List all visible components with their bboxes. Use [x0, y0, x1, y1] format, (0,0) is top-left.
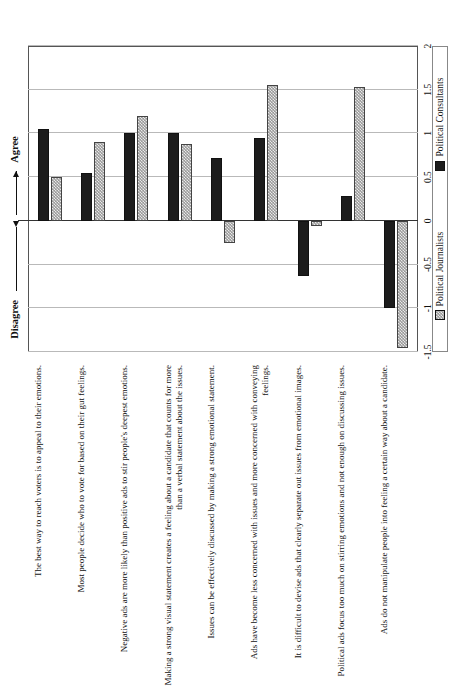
disagree-label: Disagree	[9, 300, 20, 339]
bar-chart: The best way to reach voters is to appea…	[0, 0, 453, 691]
bar-group	[288, 46, 331, 352]
chart-legend: Political JournalistsPolitical Consultan…	[432, 46, 448, 352]
category-label: Negative ads are more likely than positi…	[119, 365, 130, 691]
legend-label: Political Consultants	[435, 78, 445, 157]
bar-political-consultants[interactable]	[38, 129, 49, 221]
bar-political-journalists[interactable]	[94, 142, 105, 221]
category-label: Issues can be effectively discussed by m…	[206, 365, 217, 691]
legend-label: Political Journalists	[435, 232, 445, 307]
bar-political-journalists[interactable]	[311, 221, 322, 226]
bar-political-journalists[interactable]	[354, 87, 365, 221]
legend-swatch-journalists	[435, 310, 445, 320]
bar-rows	[28, 46, 418, 352]
bar-group	[158, 46, 201, 352]
bar-political-consultants[interactable]	[124, 133, 135, 220]
category-label: Most people decide who to vote for based…	[76, 365, 87, 691]
bar-political-consultants[interactable]	[341, 196, 352, 220]
bar-political-journalists[interactable]	[181, 144, 192, 221]
legend-item[interactable]: Political Journalists	[435, 232, 445, 321]
plot-area: -1.5-1-0.500.511.52	[28, 46, 418, 352]
bar-political-journalists[interactable]	[224, 221, 235, 243]
bar-political-consultants[interactable]	[254, 138, 265, 221]
legend-swatch-consultants	[435, 161, 445, 171]
category-label: Making a strong visual statement creates…	[163, 365, 185, 691]
category-label: The best way to reach voters is to appea…	[33, 365, 44, 691]
category-label: Political ads focus too much on stirring…	[336, 365, 347, 691]
legend-item[interactable]: Political Consultants	[435, 78, 445, 171]
category-label: Ads have become less concerned with issu…	[249, 365, 271, 691]
bar-political-consultants[interactable]	[168, 133, 179, 220]
bar-political-consultants[interactable]	[81, 173, 92, 221]
bar-political-consultants[interactable]	[211, 158, 222, 221]
bar-group	[245, 46, 288, 352]
disagree-arrow-line	[16, 227, 17, 291]
agree-arrow-line	[16, 171, 17, 215]
bar-group	[28, 46, 71, 352]
disagree-arrow-head	[13, 221, 19, 227]
bar-group	[331, 46, 374, 352]
bar-group	[201, 46, 244, 352]
agree-label: Agree	[9, 136, 20, 163]
category-axis-labels: The best way to reach voters is to appea…	[28, 359, 418, 691]
agree-arrow-head	[13, 171, 19, 177]
bar-political-journalists[interactable]	[137, 116, 148, 221]
category-label: It is difficult to devise ads that clear…	[293, 365, 304, 691]
bar-political-journalists[interactable]	[51, 177, 62, 221]
category-label: Ads do not manipulate people into feelin…	[379, 365, 390, 691]
bar-political-journalists[interactable]	[267, 85, 278, 221]
bar-political-journalists[interactable]	[397, 221, 408, 348]
bar-political-consultants[interactable]	[298, 221, 309, 276]
bar-group	[115, 46, 158, 352]
bar-group	[71, 46, 114, 352]
bar-group	[375, 46, 418, 352]
chart-stage: The best way to reach voters is to appea…	[0, 0, 453, 691]
bar-political-consultants[interactable]	[384, 221, 395, 308]
